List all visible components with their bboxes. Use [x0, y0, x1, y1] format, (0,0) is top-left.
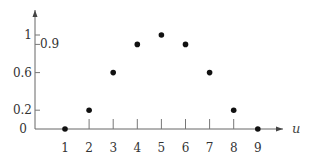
- x-tick-label: 6: [182, 141, 190, 155]
- y-tick-label: 0: [19, 122, 27, 136]
- data-point: [255, 126, 261, 132]
- data-point: [110, 70, 116, 76]
- x-axis-label: u: [292, 121, 300, 136]
- data-point: [231, 107, 237, 113]
- data-point: [62, 126, 68, 132]
- x-tick-label: 8: [230, 141, 238, 155]
- data-point: [135, 42, 141, 48]
- x-tick-label: 3: [109, 141, 117, 155]
- x-tick-label: 7: [206, 141, 214, 155]
- x-tick-label: 5: [158, 141, 166, 155]
- x-tick-label: 4: [133, 141, 141, 155]
- y-ticks: 00.20.60.91: [13, 28, 59, 136]
- data-point: [207, 70, 213, 76]
- x-tick-label: 2: [85, 141, 93, 155]
- axes: u: [35, 10, 300, 136]
- data-point: [86, 107, 92, 113]
- y-tick-label: 0.2: [13, 103, 32, 117]
- y-tick-label: 1: [24, 28, 32, 42]
- y-tick-label: 0.6: [13, 66, 32, 80]
- data-point: [183, 42, 189, 48]
- data-points: [62, 32, 260, 132]
- scatter-chart: u 123456789 00.20.60.91: [0, 0, 309, 162]
- data-point: [159, 32, 165, 38]
- x-tick-label: 9: [254, 141, 262, 155]
- x-ticks: 123456789: [61, 119, 261, 155]
- x-tick-label: 1: [61, 141, 69, 155]
- y-tick-label: 0.9: [40, 37, 59, 51]
